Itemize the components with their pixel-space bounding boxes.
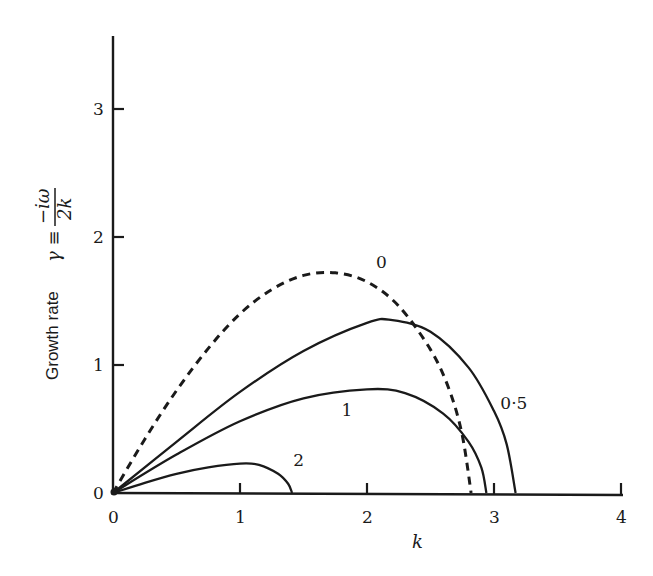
curve-2: [113, 463, 292, 493]
y-axis-title-text: Growth rate: [43, 291, 62, 380]
y-tick-label: 0: [93, 483, 104, 503]
x-tick-label: 2: [362, 507, 373, 527]
axes: [111, 36, 623, 495]
x-tick-label: 4: [616, 507, 627, 527]
origin-dot: [111, 489, 118, 496]
growth-rate-chart: 0123 01234 00·512 k Growth rate γ ≡ −iω …: [0, 0, 653, 576]
curve-label: 1: [342, 400, 353, 420]
y-axis-title-denominator: 2k: [54, 198, 75, 221]
y-axis-title-symbol: γ ≡: [43, 230, 64, 262]
curve-labels: 00·512: [293, 252, 527, 470]
y-tick-label: 3: [93, 99, 104, 119]
y-tick-label: 1: [93, 355, 104, 375]
y-axis-title: Growth rate γ ≡ −iω 2k: [32, 188, 75, 380]
curve-label: 2: [293, 450, 304, 470]
curve-0-5: [113, 319, 516, 493]
curve-1: [113, 389, 486, 493]
curve-label: 0: [376, 252, 387, 272]
x-tick-label: 0: [108, 507, 119, 527]
x-tick-label: 1: [235, 507, 246, 527]
y-ticks: 0123: [93, 99, 124, 503]
x-ticks: 01234: [108, 483, 627, 527]
x-axis-title: k: [412, 531, 423, 552]
y-tick-label: 2: [93, 227, 104, 247]
y-axis-title-numerator: −iω: [32, 188, 53, 224]
x-tick-label: 3: [489, 507, 500, 527]
curves: [111, 272, 516, 495]
curve-label: 0·5: [500, 393, 527, 413]
